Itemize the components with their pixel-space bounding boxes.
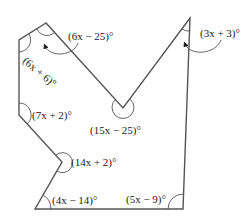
angle-arc-notch xyxy=(56,153,72,173)
label-valley: (15x − 25)° xyxy=(90,124,141,137)
polygon-diagram: (6x − 25)° (6x + 6)° (7x + 2)° (14x + 2)… xyxy=(0,0,252,216)
angle-arc-bottom-left xyxy=(43,195,51,209)
label-notch: (14x + 2)° xyxy=(71,156,116,169)
label-bottom-left: (4x − 14)° xyxy=(52,194,97,207)
label-top-right: (3x + 3)° xyxy=(200,27,240,40)
label-bottom-right: (5x − 9)° xyxy=(126,193,166,206)
label-left-upper: (6x + 6)° xyxy=(20,54,59,90)
angle-arc-bottom-right xyxy=(168,194,183,209)
label-left-lower: (7x + 2)° xyxy=(32,109,72,122)
pointer-arrow-top-right xyxy=(185,40,221,52)
angle-arc-top-right xyxy=(182,29,189,31)
label-top-left: (6x − 25)° xyxy=(68,30,113,43)
